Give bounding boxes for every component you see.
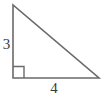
triangle-outline-shape — [13, 5, 99, 78]
vertical-leg-label: 3 — [1, 37, 12, 52]
right-triangle-figure: 3 4 — [0, 0, 104, 98]
horizontal-leg-label: 4 — [47, 81, 61, 96]
right-angle-marker-icon — [13, 67, 24, 79]
